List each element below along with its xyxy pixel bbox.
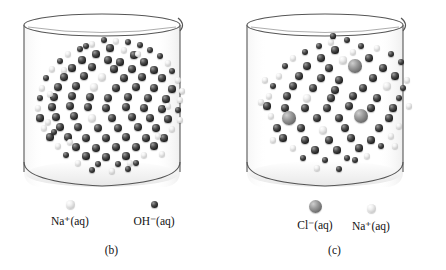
panel-c: Cl⁻(aq) Na⁺(aq) (c) [223,0,446,270]
legend-item-sodium-b: Na⁺(aq) [28,200,112,228]
panel-caption-c: (c) [223,244,446,256]
beaker-c [241,12,409,192]
panel-b: Na⁺(aq) OH⁻(aq) (b) [0,0,223,270]
sodium-ion-swatch [66,200,75,209]
legend-b: Na⁺(aq) OH⁻(aq) [0,200,223,245]
hydroxide-ion-swatch [151,201,158,208]
chloride-ion-swatch [309,200,322,213]
sodium-ion-swatch-c [367,204,376,213]
legend-label-sodium-b: Na⁺(aq) [28,214,112,228]
legend-c: Cl⁻(aq) Na⁺(aq) [223,200,446,245]
legend-label-sodium-c: Na⁺(aq) [329,219,413,233]
panel-caption-b: (b) [0,244,223,256]
legend-item-sodium-c: Na⁺(aq) [329,202,413,233]
legend-item-hydroxide-b: OH⁻(aq) [112,200,196,228]
legend-label-hydroxide-b: OH⁻(aq) [112,214,196,228]
beaker-b [18,12,186,192]
